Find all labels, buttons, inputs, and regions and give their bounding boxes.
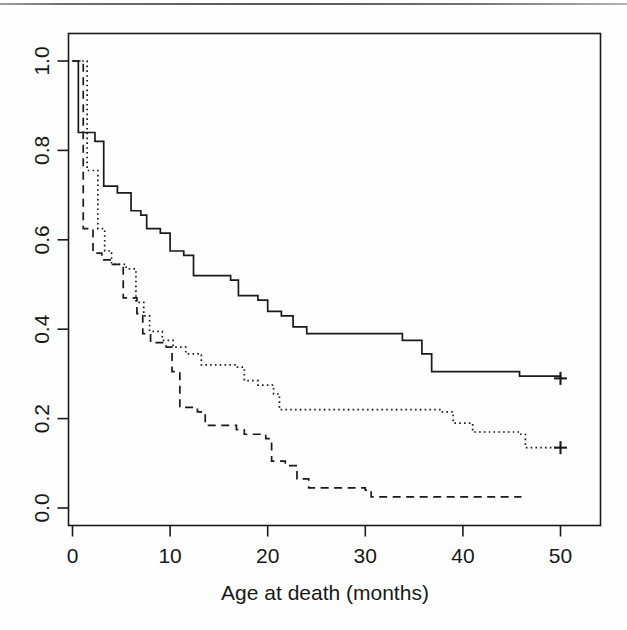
- censor-plus-marker: [554, 372, 567, 385]
- plot-frame-box: [69, 34, 601, 526]
- series-solid-curve: [73, 61, 561, 378]
- y-axis-ticks: [58, 61, 69, 508]
- survival-plot-canvas: 0 10 20 30 40 50 0.0 0.2 0.4 0.6 0.8 1.0…: [0, 0, 627, 630]
- censor-plus-marker: [554, 441, 567, 454]
- figure-root: 0 10 20 30 40 50 0.0 0.2 0.4 0.6 0.8 1.0…: [0, 0, 627, 630]
- x-axis-ticks: [73, 526, 561, 537]
- x-tick-label-40: 40: [451, 544, 474, 567]
- y-tick-label-1.0: 1.0: [30, 46, 53, 75]
- y-tick-label-0.4: 0.4: [30, 314, 53, 344]
- y-tick-label-0.6: 0.6: [30, 225, 53, 254]
- x-tick-label-0: 0: [67, 544, 79, 567]
- y-tick-label-0.0: 0.0: [30, 493, 53, 522]
- x-tick-label-20: 20: [256, 544, 279, 567]
- x-tick-label-30: 30: [354, 544, 377, 567]
- x-tick-label-10: 10: [158, 544, 181, 567]
- series-dashed-curve: [73, 61, 522, 497]
- censor-marker-layer: [554, 372, 567, 454]
- series-dotted-curve: [73, 61, 561, 448]
- y-tick-label-0.2: 0.2: [30, 404, 53, 433]
- x-tick-label-50: 50: [549, 544, 572, 567]
- x-axis-title: Age at death (months): [221, 581, 429, 604]
- series-layer: [73, 61, 561, 497]
- y-tick-label-0.8: 0.8: [30, 136, 53, 165]
